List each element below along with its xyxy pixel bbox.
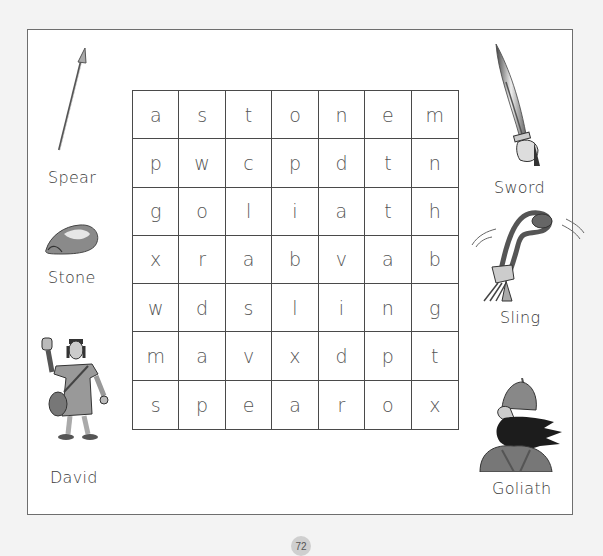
grid-cell[interactable]: e bbox=[226, 381, 272, 429]
grid-cell[interactable]: x bbox=[133, 236, 179, 284]
grid-cell[interactable]: o bbox=[272, 91, 318, 139]
grid-cell[interactable]: v bbox=[226, 332, 272, 380]
word-label-stone: Stone bbox=[48, 268, 96, 287]
grid-cell[interactable]: a bbox=[365, 236, 411, 284]
sword-icon bbox=[490, 42, 550, 172]
word-label-spear: Spear bbox=[48, 168, 96, 187]
spear-icon bbox=[52, 45, 92, 155]
word-search-grid: astonempwcpdtngoliathxrabvabwdslingmavxd… bbox=[132, 90, 459, 430]
david-illustration bbox=[36, 334, 111, 444]
grid-cell[interactable]: d bbox=[319, 139, 365, 187]
grid-cell[interactable]: a bbox=[272, 381, 318, 429]
word-label-goliath: Goliath bbox=[492, 479, 551, 498]
grid-cell[interactable]: p bbox=[272, 139, 318, 187]
grid-cell[interactable]: n bbox=[412, 139, 458, 187]
grid-cell[interactable]: i bbox=[272, 188, 318, 236]
grid-cell[interactable]: m bbox=[133, 332, 179, 380]
grid-cell[interactable]: o bbox=[179, 188, 225, 236]
grid-cell[interactable]: p bbox=[179, 381, 225, 429]
grid-cell[interactable]: s bbox=[226, 284, 272, 332]
grid-cell[interactable]: b bbox=[412, 236, 458, 284]
grid-cell[interactable]: a bbox=[319, 188, 365, 236]
grid-cell[interactable]: m bbox=[412, 91, 458, 139]
grid-cell[interactable]: r bbox=[319, 381, 365, 429]
word-label-david: David bbox=[50, 468, 98, 487]
grid-cell[interactable]: s bbox=[179, 91, 225, 139]
grid-cell[interactable]: x bbox=[272, 332, 318, 380]
grid-cell[interactable]: w bbox=[179, 139, 225, 187]
grid-cell[interactable]: t bbox=[412, 332, 458, 380]
grid-cell[interactable]: w bbox=[133, 284, 179, 332]
grid-cell[interactable]: g bbox=[412, 284, 458, 332]
grid-cell[interactable]: i bbox=[319, 284, 365, 332]
grid-cell[interactable]: v bbox=[319, 236, 365, 284]
word-label-sword: Sword bbox=[494, 178, 545, 197]
grid-cell[interactable]: e bbox=[365, 91, 411, 139]
grid-cell[interactable]: x bbox=[412, 381, 458, 429]
page-number: 72 bbox=[291, 536, 311, 556]
word-label-sling: Sling bbox=[500, 308, 540, 327]
grid-cell[interactable]: a bbox=[226, 236, 272, 284]
grid-cell[interactable]: d bbox=[179, 284, 225, 332]
grid-cell[interactable]: b bbox=[272, 236, 318, 284]
grid-cell[interactable]: t bbox=[365, 188, 411, 236]
goliath-illustration bbox=[474, 378, 564, 472]
grid-cell[interactable]: t bbox=[226, 91, 272, 139]
grid-cell[interactable]: t bbox=[365, 139, 411, 187]
grid-cell[interactable]: a bbox=[179, 332, 225, 380]
grid-cell[interactable]: l bbox=[226, 188, 272, 236]
grid-cell[interactable]: g bbox=[133, 188, 179, 236]
grid-cell[interactable]: p bbox=[365, 332, 411, 380]
grid-cell[interactable]: c bbox=[226, 139, 272, 187]
grid-cell[interactable]: n bbox=[319, 91, 365, 139]
grid-cell[interactable]: h bbox=[412, 188, 458, 236]
grid-cell[interactable]: o bbox=[365, 381, 411, 429]
grid-cell[interactable]: s bbox=[133, 381, 179, 429]
grid-cell[interactable]: p bbox=[133, 139, 179, 187]
grid-cell[interactable]: d bbox=[319, 332, 365, 380]
sling-icon bbox=[462, 205, 592, 305]
stone-icon bbox=[42, 222, 102, 258]
grid-cell[interactable]: n bbox=[365, 284, 411, 332]
grid-cell[interactable]: a bbox=[133, 91, 179, 139]
grid-cell[interactable]: l bbox=[272, 284, 318, 332]
grid-cell[interactable]: r bbox=[179, 236, 225, 284]
